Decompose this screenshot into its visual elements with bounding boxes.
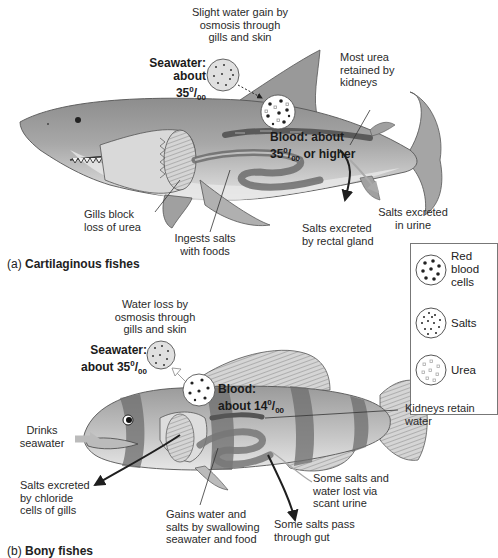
label-gains-water: Gains water and salts by swallowing seaw… [166, 508, 276, 546]
label-salts-urine: Salts excreted in urine [368, 206, 458, 231]
urea-icon [415, 354, 447, 386]
label-line: retained by [340, 64, 420, 77]
label-water-gain: Slight water gain by osmosis through gil… [170, 6, 310, 44]
subscript: 00 [291, 154, 300, 163]
superscript: 0 [267, 398, 271, 407]
superscript: 0 [189, 85, 193, 94]
label-line: Salts excreted [20, 479, 110, 492]
label-line: about 14 [218, 399, 267, 413]
label-bony-blood: Blood: about 140/00 [218, 383, 298, 417]
label-line: Some salts pass [274, 518, 374, 531]
label-bony-seawater: Seawater: about 350/00 [80, 344, 147, 378]
label-gills-block: Gills block loss of urea [84, 208, 164, 233]
label-line: or higher [300, 147, 355, 161]
label-line: Blood: [218, 383, 298, 396]
red-blood-cells-icon [415, 254, 447, 286]
label-line: Ingests salts [165, 232, 245, 245]
caption-panel-a: (a) Cartilaginous fishes [7, 257, 140, 271]
caption-letter: (b) [7, 544, 22, 558]
label-urea-retained: Most urea retained by kidneys [340, 51, 420, 89]
salts-icon [415, 307, 447, 339]
caption-title: Bony fishes [25, 544, 93, 558]
label-line: Some salts and [313, 472, 413, 485]
label-water-loss: Water loss by osmosis through gills and … [100, 298, 210, 336]
subscript: 00 [275, 406, 284, 415]
label-line: water lost via [313, 485, 413, 498]
label-line: Drinks [12, 424, 72, 437]
legend-label: Red [451, 250, 479, 263]
superscript: 0 [130, 359, 134, 368]
label-line: gills and skin [100, 323, 210, 336]
label-line: Gains water and [166, 508, 276, 521]
label-line: about 35 [81, 360, 130, 374]
caption-letter: (a) [7, 257, 22, 271]
label-line: water [405, 415, 497, 428]
label-chloride-cells: Salts excreted by chloride cells of gill… [20, 479, 110, 517]
label-drinks-seawater: Drinks seawater [12, 424, 72, 449]
label-line: through gut [274, 531, 374, 544]
label-line: cells of gills [20, 504, 110, 517]
legend-item-salts: Salts [415, 307, 477, 339]
superscript: 0 [283, 146, 287, 155]
label-kidneys-retain: Kidneys retain water [405, 402, 497, 427]
label-line: seawater and food [166, 533, 276, 546]
label-line: loss of urea [84, 221, 164, 234]
subscript: 00 [197, 93, 206, 102]
label-line: in urine [368, 219, 458, 232]
legend-label: blood [451, 263, 479, 276]
bony-blood-circle [183, 374, 215, 406]
label-line: Salts excreted [368, 206, 458, 219]
label-line: Most urea [340, 51, 420, 64]
shark-blood-circle [261, 95, 295, 129]
label-line: Slight water gain by [170, 6, 310, 19]
legend: Red blood cells Salts Urea [410, 243, 498, 415]
label-line: 35 [270, 147, 283, 161]
label-line: scant urine [313, 497, 413, 510]
label-line: Water loss by [100, 298, 210, 311]
subscript: 00 [138, 367, 147, 376]
legend-item-urea: Urea [415, 354, 476, 386]
legend-label: cells [451, 276, 479, 289]
label-line: Kidneys retain [405, 402, 497, 415]
shark-seawater-circle [207, 59, 239, 91]
label-line: osmosis through [170, 19, 310, 32]
label-line: kidneys [340, 76, 420, 89]
caption-title: Cartilaginous fishes [25, 257, 140, 271]
caption-panel-b: (b) Bony fishes [7, 544, 93, 558]
legend-label: Urea [451, 364, 476, 377]
label-line: salts by swallowing [166, 521, 276, 534]
label-shark-blood: Blood: about 350/00 or higher [270, 131, 380, 165]
label-line: seawater [12, 437, 72, 450]
label-line: Gills block [84, 208, 164, 221]
label-line: gills and skin [170, 31, 310, 44]
label-line: osmosis through [100, 311, 210, 324]
label-line: with foods [165, 245, 245, 258]
bony-seawater-circle [147, 341, 175, 369]
label-line: by chloride [20, 492, 110, 505]
label-shark-seawater: Seawater: about 350/00 [140, 57, 206, 104]
label-line: Seawater: [80, 344, 147, 357]
legend-label: Salts [451, 317, 477, 330]
label-line: by rectal gland [302, 235, 392, 248]
label-scant-urine: Some salts and water lost via scant urin… [313, 472, 413, 510]
label-ingests-salts: Ingests salts with foods [165, 232, 245, 257]
label-line: Blood: about [270, 131, 380, 144]
legend-item-red-blood-cells: Red blood cells [415, 250, 479, 289]
label-salts-gut: Some salts pass through gut [274, 518, 374, 543]
